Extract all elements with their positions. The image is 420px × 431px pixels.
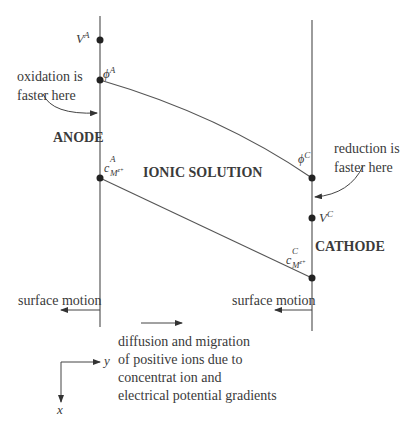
figure-caption-cutoff [100,424,320,431]
cathode-surface-motion-label: surface motion [232,294,316,308]
cathode-c-dot [309,275,316,282]
cathode-phi-label: ϕC [298,153,310,165]
anode-v-label: VA [76,32,89,45]
transport-description: diffusion and migration of positive ions… [118,333,277,405]
anode-surface-motion-label: surface motion [18,294,102,308]
anode-c-dot [97,175,104,182]
y-axis-label: y [104,354,110,367]
oxidation-annotation: oxidation is faster here [17,67,83,105]
concentration-line [100,178,312,278]
ionic-solution-label: IONIC SOLUTION [143,166,262,180]
anode-concentration-label: c A Mz+ [104,162,109,174]
cathode-concentration-label: c C Mz+ [286,254,291,266]
cathode-v-label: VC [319,211,333,224]
cathode-phi-dot [309,175,316,182]
cathode-label: CATHODE [315,240,385,254]
anode-v-dot [97,37,104,44]
potential-curve [100,80,312,178]
anode-label: ANODE [53,131,104,145]
reduction-annotation: reduction is faster here [334,139,400,177]
x-axis-label: x [57,403,63,416]
anode-phi-label: ϕA [103,67,115,80]
cathode-v-dot [309,215,316,222]
